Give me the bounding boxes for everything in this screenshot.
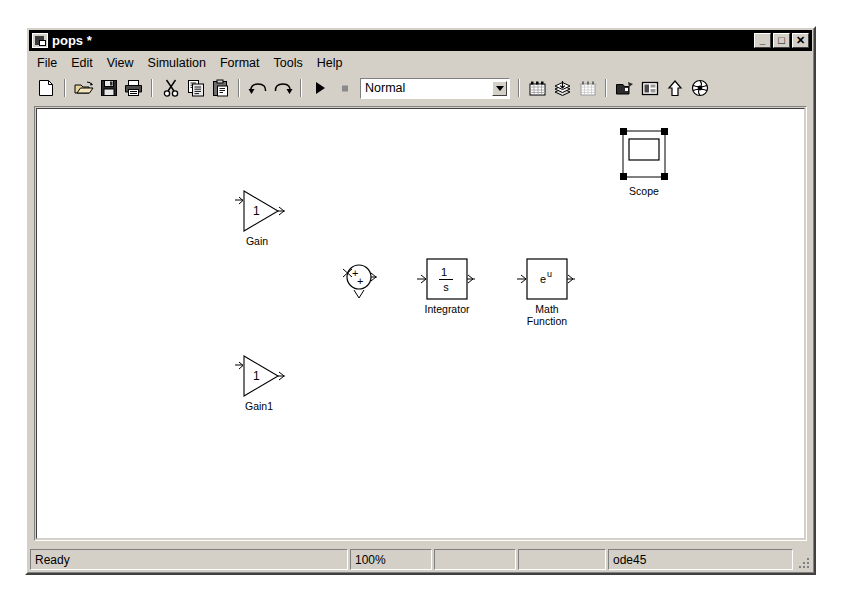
start-simulation-button[interactable]: [308, 77, 331, 99]
start-simulation-icon: [313, 80, 327, 96]
chevron-down-icon: [496, 86, 504, 91]
redo-icon: [273, 80, 293, 96]
new-model-icon: [38, 79, 55, 97]
sum-block[interactable]: + +: [335, 257, 387, 303]
menu-item-tools[interactable]: Tools: [267, 54, 310, 72]
selection-handle-br: [661, 173, 668, 180]
toolbar-separator-6: [605, 79, 607, 97]
gain1-value: 1: [253, 369, 260, 383]
simulink-model-icon: [32, 33, 48, 48]
gain-block-shape: 1: [233, 189, 295, 239]
resize-grip[interactable]: [795, 549, 811, 570]
cut-button[interactable]: [159, 77, 182, 99]
integrator-block[interactable]: 1 s Integrator: [415, 257, 487, 319]
gain1-block[interactable]: 1 Gain1: [233, 354, 295, 416]
menu-item-help[interactable]: Help: [310, 54, 350, 72]
simulink-model-window: pops * _ □ ✕ File Edit View Simulation F…: [25, 26, 816, 575]
help-button[interactable]: [688, 77, 711, 99]
title-bar[interactable]: pops * _ □ ✕: [29, 30, 812, 51]
gain1-block-shape: 1: [233, 354, 295, 404]
gain-value: 1: [253, 204, 260, 218]
stop-simulation-icon: [338, 80, 352, 96]
scope-block-shape: [611, 125, 677, 187]
menu-item-simulation[interactable]: Simulation: [141, 54, 213, 72]
gain1-block-label: Gain1: [245, 400, 273, 412]
status-zoom: 100%: [350, 549, 432, 570]
model-browser-button[interactable]: [638, 77, 661, 99]
save-icon: [100, 79, 118, 97]
minimize-button[interactable]: _: [754, 33, 771, 48]
simulation-mode-select[interactable]: Normal: [360, 78, 510, 99]
toolbar-separator-2: [151, 79, 153, 97]
toolbar-separator-5: [518, 79, 520, 97]
scope-block-label: Scope: [629, 185, 659, 197]
window-title: pops *: [52, 33, 92, 48]
undo-icon: [248, 80, 268, 96]
library-browser-button[interactable]: [551, 77, 574, 99]
status-solver: ode45: [608, 549, 793, 570]
go-to-parent-button[interactable]: [663, 77, 686, 99]
open-model-button[interactable]: [72, 77, 95, 99]
new-model-button[interactable]: [35, 77, 58, 99]
menu-item-view[interactable]: View: [100, 54, 141, 72]
model-explorer-button[interactable]: [613, 77, 636, 99]
math-function-block-shape: e u: [515, 257, 587, 305]
paste-icon: [212, 79, 229, 97]
status-panel-3: [434, 549, 516, 570]
redo-button[interactable]: [271, 77, 294, 99]
status-panel-4: [518, 549, 606, 570]
gain-block-label: Gain: [246, 235, 268, 247]
selection-handle-bl: [620, 173, 627, 180]
menu-item-edit[interactable]: Edit: [64, 54, 100, 72]
debug-button[interactable]: [576, 77, 599, 99]
sum-sign-2: +: [357, 275, 363, 287]
menu-item-file[interactable]: File: [30, 54, 64, 72]
print-button[interactable]: [122, 77, 145, 99]
stop-simulation-button[interactable]: [333, 77, 356, 99]
window-controls: _ □ ✕: [754, 33, 812, 48]
cut-icon: [163, 79, 179, 97]
math-function-block-label: Math Function: [527, 303, 567, 327]
open-model-icon: [74, 80, 94, 97]
model-canvas-frame: 1 Gain + +: [34, 106, 807, 541]
minimize-glyph: _: [755, 34, 770, 47]
update-diagram-button[interactable]: [526, 77, 549, 99]
close-glyph: ✕: [793, 34, 808, 47]
menu-bar: File Edit View Simulation Format Tools H…: [30, 53, 811, 72]
math-function-exponent: u: [547, 269, 552, 279]
screenshot-root: pops * _ □ ✕ File Edit View Simulation F…: [0, 0, 841, 603]
gain-block[interactable]: 1 Gain: [233, 189, 295, 251]
simulation-mode-dropdown-button[interactable]: [492, 81, 507, 96]
library-browser-icon: [553, 80, 572, 97]
sum-block-shape: + +: [335, 257, 387, 303]
model-browser-icon: [641, 80, 659, 97]
go-to-parent-icon: [667, 80, 683, 97]
save-button[interactable]: [97, 77, 120, 99]
print-icon: [124, 79, 143, 97]
undo-button[interactable]: [246, 77, 269, 99]
help-icon: [691, 79, 709, 97]
integrator-numerator: 1: [441, 266, 447, 278]
maximize-glyph: □: [774, 34, 789, 47]
integrator-denominator: s: [443, 281, 449, 293]
paste-button[interactable]: [209, 77, 232, 99]
close-button[interactable]: ✕: [792, 33, 809, 48]
toolbar: Normal: [30, 74, 811, 102]
math-function-block[interactable]: e u Math Function: [515, 257, 587, 333]
integrator-block-label: Integrator: [425, 303, 470, 315]
math-function-base: e: [540, 273, 546, 285]
simulation-mode-value: Normal: [361, 81, 405, 95]
maximize-button[interactable]: □: [773, 33, 790, 48]
status-bar: Ready 100% ode45: [30, 549, 811, 570]
status-message: Ready: [30, 549, 348, 570]
selection-handle-tl: [620, 128, 627, 135]
menu-item-format[interactable]: Format: [213, 54, 267, 72]
debug-icon: [579, 80, 597, 97]
model-explorer-icon: [615, 80, 634, 97]
copy-button[interactable]: [184, 77, 207, 99]
toolbar-separator-1: [64, 79, 66, 97]
scope-block[interactable]: Scope: [611, 125, 677, 211]
toolbar-separator-3: [238, 79, 240, 97]
model-canvas[interactable]: 1 Gain + +: [36, 108, 805, 539]
update-diagram-icon: [528, 80, 547, 97]
